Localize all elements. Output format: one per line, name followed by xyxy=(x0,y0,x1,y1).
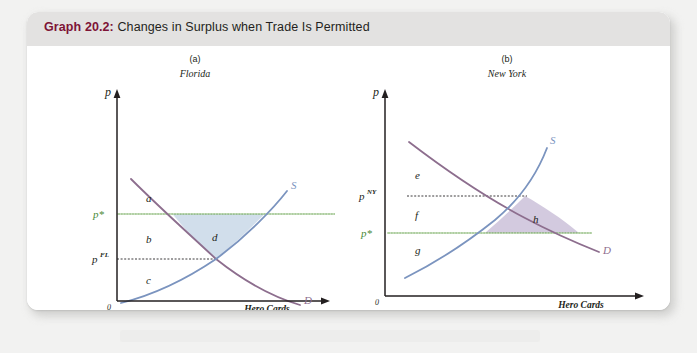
region-label-h: h xyxy=(533,213,539,225)
supply-label-b: S xyxy=(550,134,556,146)
y-axis-label-a: p xyxy=(104,85,111,99)
figure-bottom-strip xyxy=(27,302,670,310)
panel-new-york: (b) New York xyxy=(347,46,667,310)
price-label-domestic-b: p NY xyxy=(358,188,377,202)
x-axis-arrow-b xyxy=(635,293,644,300)
region-label-d: d xyxy=(212,231,218,243)
demand-curve-b xyxy=(409,142,599,252)
graph-title-text: Changes in Surplus when Trade Is Permitt… xyxy=(114,20,370,34)
price-label-world-b-text: p* xyxy=(360,227,373,239)
price-label-domestic-a: p FL xyxy=(91,251,109,265)
shaded-region-h xyxy=(485,196,579,233)
figure-body: (a) Florida xyxy=(27,46,670,310)
supply-label-a: S xyxy=(291,179,297,191)
price-label-domestic-a-text: p xyxy=(91,253,98,265)
price-label-domestic-b-text: p xyxy=(358,190,365,202)
figure-title: Graph 20.2: Changes in Surplus when Trad… xyxy=(44,20,370,34)
price-label-world-a: p* xyxy=(92,208,105,220)
y-axis-label-b: p xyxy=(372,85,379,99)
region-label-e: e xyxy=(415,169,420,181)
figure-header-band: Graph 20.2: Changes in Surplus when Trad… xyxy=(27,12,670,46)
region-label-c: c xyxy=(146,274,151,286)
price-label-world-b: p* xyxy=(360,227,373,239)
y-axis-arrow-a xyxy=(114,89,121,98)
figure-card: Graph 20.2: Changes in Surplus when Trad… xyxy=(27,12,670,310)
region-label-b: b xyxy=(146,233,152,245)
graph-number: Graph 20.2: xyxy=(44,20,114,34)
y-axis-arrow-b xyxy=(382,89,389,98)
page-background-text-bleed xyxy=(120,330,540,342)
plot-new-york: p 0 Hero Cards p NY p* e f g h S xyxy=(347,46,667,310)
demand-label-b: D xyxy=(602,244,611,256)
shaded-region-d xyxy=(173,214,265,259)
plot-florida: p 0 Hero Cards p* p FL a b c d S xyxy=(35,46,355,310)
region-label-a: a xyxy=(146,192,152,204)
price-label-domestic-b-sup: NY xyxy=(366,188,377,196)
price-label-domestic-a-sup: FL xyxy=(100,251,109,259)
panel-florida: (a) Florida xyxy=(35,46,355,310)
region-label-f: f xyxy=(415,209,420,221)
region-label-g: g xyxy=(415,244,421,256)
price-label-world-a-text: p* xyxy=(92,208,105,220)
